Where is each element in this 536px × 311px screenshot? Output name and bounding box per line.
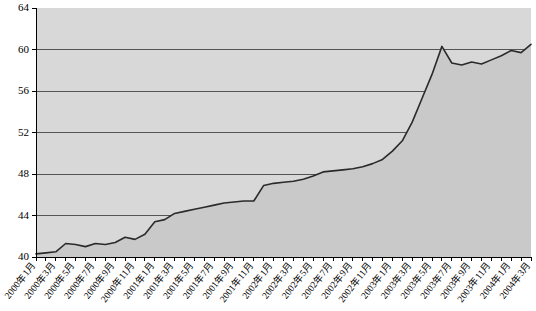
y-axis-tick-label: 64 — [18, 1, 30, 13]
y-axis-tick-label: 44 — [18, 209, 30, 221]
chart-container: 404448525660642000年1月2000年3月2000年5月2000年… — [0, 0, 536, 311]
y-axis-tick-label: 40 — [18, 250, 30, 262]
y-axis-tick-label: 52 — [18, 126, 29, 138]
y-axis-tick-label: 56 — [18, 84, 30, 96]
y-axis-tick-label: 60 — [18, 43, 30, 55]
y-axis-tick-label: 48 — [18, 167, 30, 179]
line-area-chart: 404448525660642000年1月2000年3月2000年5月2000年… — [0, 0, 536, 311]
